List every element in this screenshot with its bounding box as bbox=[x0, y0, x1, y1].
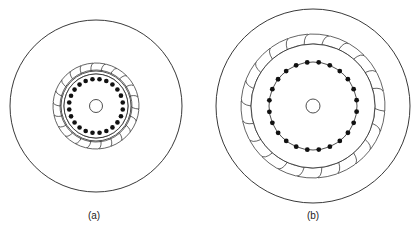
bolt-hole-dot bbox=[120, 100, 125, 105]
bolt-hole-dot bbox=[104, 129, 109, 134]
bolt-hole-dot bbox=[351, 120, 356, 125]
bolt-hole-dot bbox=[270, 120, 275, 125]
bolt-hole-dot bbox=[346, 130, 351, 135]
bolt-hole-dot bbox=[90, 77, 95, 82]
bolt-hole-dot bbox=[97, 77, 102, 82]
bolt-hole-dot bbox=[267, 109, 272, 114]
bolt-hole-dot bbox=[276, 130, 281, 135]
bolt-hole-dot bbox=[351, 87, 356, 92]
bolt-hole-dot bbox=[327, 144, 332, 149]
bolt-hole-dot bbox=[327, 63, 332, 68]
bolt-hole-dot bbox=[294, 144, 299, 149]
bolt-hole-dot bbox=[119, 114, 124, 119]
bolt-hole-dot bbox=[69, 114, 74, 119]
bolt-hole-dot bbox=[83, 129, 88, 134]
bolt-hole-dot bbox=[284, 69, 289, 74]
bolt-hole-dot bbox=[316, 60, 321, 65]
bolt-hole-dot bbox=[115, 87, 120, 92]
hub-circle bbox=[90, 100, 103, 113]
bolt-hole-dot bbox=[120, 107, 125, 112]
bolt-hole-dot bbox=[69, 93, 74, 98]
bolt-hole-dot bbox=[97, 130, 102, 135]
bolt-hole-dot bbox=[119, 93, 124, 98]
bolt-hole-dot bbox=[83, 79, 88, 84]
bolt-hole-dot bbox=[90, 130, 95, 135]
hub-circle bbox=[306, 99, 320, 113]
bolt-hole-dot bbox=[354, 109, 359, 114]
diagram-canvas bbox=[0, 0, 419, 237]
bolt-hole-dot bbox=[72, 87, 77, 92]
bolt-hole-dot bbox=[337, 69, 342, 74]
rotor-figure-b bbox=[216, 9, 410, 203]
bolt-hole-dot bbox=[305, 147, 310, 152]
rotor-figure-a bbox=[10, 20, 182, 192]
bolt-hole-dot bbox=[110, 125, 115, 130]
bolt-hole-dot bbox=[294, 63, 299, 68]
bolt-hole-dot bbox=[77, 82, 82, 87]
bolt-hole-dot bbox=[72, 120, 77, 125]
bolt-hole-dot bbox=[67, 100, 72, 105]
bolt-hole-dot bbox=[115, 120, 120, 125]
bolt-hole-dot bbox=[110, 82, 115, 87]
bolt-hole-dot bbox=[67, 107, 72, 112]
bolt-hole-dot bbox=[345, 77, 350, 82]
figure-label-a: (a) bbox=[88, 210, 100, 221]
bolt-hole-dot bbox=[267, 98, 272, 103]
bolt-hole-dot bbox=[104, 79, 109, 84]
bolt-hole-dot bbox=[276, 77, 281, 82]
bolt-hole-dot bbox=[305, 60, 310, 65]
bolt-hole-dot bbox=[77, 125, 82, 130]
figure-label-b: (b) bbox=[307, 210, 319, 221]
bolt-hole-dot bbox=[354, 98, 359, 103]
bolt-hole-dot bbox=[337, 138, 342, 143]
bolt-hole-dot bbox=[316, 147, 321, 152]
rotor-blade bbox=[131, 96, 139, 110]
bolt-hole-dot bbox=[284, 139, 289, 144]
bolt-hole-dot bbox=[270, 87, 275, 92]
